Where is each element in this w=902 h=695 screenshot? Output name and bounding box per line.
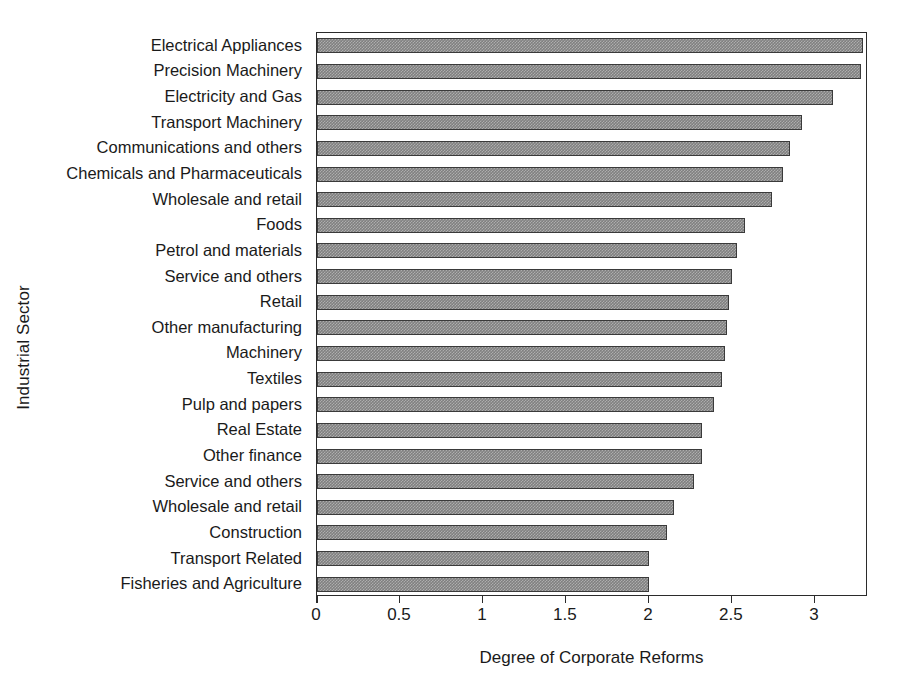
x-tick-mark (399, 596, 401, 603)
bar (317, 525, 667, 540)
bar (317, 320, 727, 335)
category-label: Fisheries and Agriculture (120, 571, 302, 595)
bar (317, 423, 702, 438)
x-tick-mark (482, 596, 484, 603)
x-tick-label: 0.5 (387, 605, 411, 625)
category-label: Chemicals and Pharmaceuticals (66, 161, 302, 185)
category-label: Precision Machinery (153, 58, 302, 82)
x-axis-ticks: 00.511.522.53 (316, 596, 867, 636)
plot-area (316, 32, 867, 596)
x-axis-title: Degree of Corporate Reforms (316, 648, 867, 668)
category-label: Service and others (164, 469, 302, 493)
bar (317, 90, 833, 105)
bar (317, 38, 863, 53)
bar (317, 218, 745, 233)
category-label: Foods (256, 212, 302, 236)
category-label: Construction (209, 520, 302, 544)
x-tick-label: 2.5 (719, 605, 743, 625)
bar (317, 243, 737, 258)
category-label: Transport Machinery (151, 110, 302, 134)
bar-chart: Industrial Sector Electrical AppliancesP… (0, 0, 902, 695)
category-label: Pulp and papers (182, 392, 302, 416)
category-label: Other manufacturing (152, 315, 302, 339)
bar (317, 474, 694, 489)
category-label: Service and others (164, 264, 302, 288)
category-label: Machinery (226, 340, 302, 364)
category-label: Petrol and materials (155, 238, 302, 262)
category-label: Electrical Appliances (151, 33, 302, 57)
bar (317, 141, 790, 156)
category-label: Retail (260, 289, 302, 313)
bar (317, 397, 714, 412)
bar (317, 500, 674, 515)
x-tick-mark (814, 596, 816, 603)
bar (317, 372, 722, 387)
x-tick-label: 3 (809, 605, 818, 625)
category-label: Wholesale and retail (153, 187, 303, 211)
bar (317, 269, 732, 284)
bar (317, 167, 783, 182)
x-tick-mark (316, 596, 318, 603)
bar (317, 115, 802, 130)
category-label: Electricity and Gas (164, 84, 302, 108)
bar (317, 551, 649, 566)
x-tick-mark (648, 596, 650, 603)
category-label: Communications and others (97, 135, 302, 159)
bar (317, 295, 729, 310)
category-label: Transport Related (171, 546, 302, 570)
category-label: Wholesale and retail (153, 494, 303, 518)
category-label: Other finance (203, 443, 302, 467)
x-tick-label: 1.5 (553, 605, 577, 625)
x-tick-mark (565, 596, 567, 603)
category-label: Textiles (247, 366, 302, 390)
bar (317, 449, 702, 464)
x-tick-label: 2 (643, 605, 652, 625)
category-axis-labels: Electrical AppliancesPrecision Machinery… (60, 32, 310, 592)
x-tick-label: 0 (311, 605, 320, 625)
x-tick-mark (731, 596, 733, 603)
category-label: Real Estate (217, 417, 302, 441)
bar (317, 577, 649, 592)
bar (317, 64, 861, 79)
x-tick-label: 1 (477, 605, 486, 625)
bar (317, 192, 772, 207)
bar (317, 346, 725, 361)
y-axis-title: Industrial Sector (0, 0, 48, 695)
